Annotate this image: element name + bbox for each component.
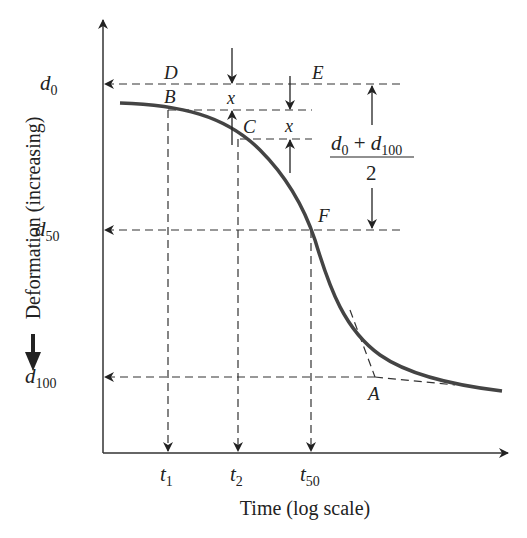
x-label-1: x [226,88,235,108]
d0-label: d0 [40,71,58,98]
point-e-label: E [311,62,324,83]
y-axis-title: Deformation (increasing) [22,117,45,320]
d100-label: d100 [25,364,57,391]
point-b-label: B [164,86,176,107]
t50-label: t50 [300,462,320,489]
x-label-2: x [284,116,293,136]
tangent-steep [350,310,375,377]
point-c-label: C [243,116,256,137]
point-f-label: F [317,205,330,226]
consolidation-diagram: d0 d50 d100 t1 t2 t50 D B C E F A x x d0… [0,0,527,538]
fraction-numerator: d0 + d100 [331,131,402,158]
fraction-denominator: 2 [366,161,377,185]
t1-label: t1 [160,462,173,489]
point-a-label: A [366,383,380,404]
point-d-label: D [163,62,178,83]
t2-label: t2 [230,462,243,489]
x-axis-title: Time (log scale) [240,497,370,520]
